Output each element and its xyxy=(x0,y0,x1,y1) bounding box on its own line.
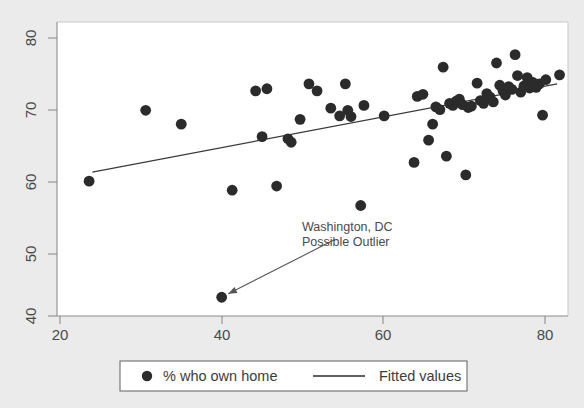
scatter-point xyxy=(271,181,282,192)
scatter-point xyxy=(250,85,261,96)
legend-label-own-home: % who own home xyxy=(163,368,277,384)
x-tick-label-80: 80 xyxy=(537,326,554,343)
scatter-point xyxy=(423,135,434,146)
scatter-point xyxy=(216,292,227,303)
scatter-point xyxy=(512,70,523,81)
y-tick-label-80: 80 xyxy=(22,30,39,47)
x-tick-label-40: 40 xyxy=(214,326,231,343)
scatter-point xyxy=(176,119,187,130)
annotation-line-2: Possible Outlier xyxy=(302,235,390,249)
scatter-point xyxy=(84,176,95,187)
annotation-line-1: Washington, DC xyxy=(302,220,393,234)
scatter-point xyxy=(346,111,357,122)
plot-area-background xyxy=(57,22,568,316)
scatter-point xyxy=(295,114,306,125)
scatter-point xyxy=(466,101,477,112)
legend-label-fitted-values: Fitted values xyxy=(379,368,461,384)
x-tick-label-20: 20 xyxy=(52,326,69,343)
scatter-point xyxy=(409,157,420,168)
scatter-point xyxy=(472,78,483,89)
scatter-point xyxy=(359,100,370,111)
scatter-point xyxy=(491,58,502,69)
scatter-point xyxy=(418,89,429,100)
scatter-point xyxy=(140,105,151,116)
y-tick-label-60: 60 xyxy=(22,174,39,191)
scatter-point xyxy=(460,170,471,181)
y-tick-label-40: 40 xyxy=(22,308,39,325)
chart-canvas: 80 70 60 50 40 20 40 60 80 Washington, D… xyxy=(0,0,584,408)
scatter-point xyxy=(554,69,565,80)
scatter-point xyxy=(227,185,238,196)
scatter-point xyxy=(262,83,273,94)
scatter-point xyxy=(286,137,297,148)
scatter-point xyxy=(427,119,438,130)
legend: % who own home Fitted values xyxy=(120,361,467,391)
x-tick-label-60: 60 xyxy=(375,326,392,343)
scatter-point xyxy=(340,78,351,89)
scatter-point xyxy=(257,131,268,142)
y-tick-label-70: 70 xyxy=(22,102,39,119)
scatter-point xyxy=(379,110,390,121)
legend-marker-circle-icon xyxy=(142,371,152,381)
scatter-point xyxy=(510,49,521,60)
scatter-point xyxy=(435,104,446,115)
scatter-point xyxy=(441,151,452,162)
y-tick-label-50: 50 xyxy=(22,246,39,263)
scatter-point xyxy=(312,85,323,96)
scatter-plot: 80 70 60 50 40 20 40 60 80 Washington, D… xyxy=(0,0,584,408)
scatter-point xyxy=(438,62,449,73)
scatter-point xyxy=(488,97,499,108)
scatter-point xyxy=(540,74,551,85)
scatter-point xyxy=(537,110,548,121)
scatter-point xyxy=(355,200,366,211)
scatter-point xyxy=(325,103,336,114)
